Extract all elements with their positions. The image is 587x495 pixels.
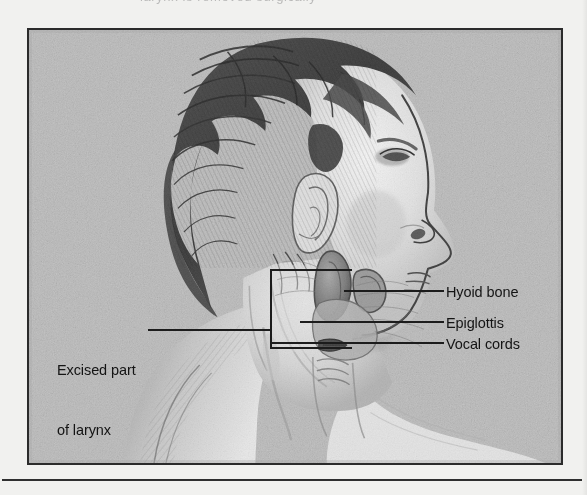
callout-label-vocal-cords: Vocal cords [446,334,520,354]
callout-label-excised-part-of-larynx: Excised part of larynx [57,320,136,480]
page-right-edge-shading [582,0,587,495]
bottom-horizontal-rule [2,479,582,481]
clipped-caption-above-figure: larynx is removed surgically [140,0,440,5]
page-background: larynx is removed surgically [0,0,587,495]
callout-label-epiglottis: Epiglottis [446,313,504,333]
callout-label-excised-line1: Excised part [57,360,136,380]
callout-label-excised-line2: of larynx [57,420,136,440]
callout-label-hyoid-bone: Hyoid bone [446,282,518,302]
